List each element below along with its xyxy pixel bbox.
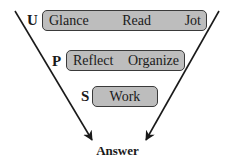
stage-label-s: S (81, 89, 89, 104)
stage-box-s: Work (92, 86, 158, 107)
answer-label: Answer (0, 144, 235, 157)
stage-box-u: Glance Read Jot (42, 10, 207, 31)
step-reflect: Reflect (73, 54, 113, 68)
step-read: Read (122, 14, 151, 28)
step-organize: Organize (128, 54, 179, 68)
stage-label-p: P (52, 54, 61, 69)
stage-label-u: U (27, 13, 38, 28)
step-jot: Jot (185, 14, 201, 28)
stage-box-p: Reflect Organize (66, 50, 185, 71)
step-glance: Glance (49, 14, 89, 28)
step-work: Work (110, 90, 141, 104)
